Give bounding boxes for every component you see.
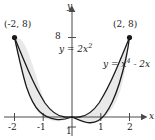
x-tick-label-neg1: -1 — [37, 123, 46, 132]
point-marker-left — [12, 35, 17, 40]
y-axis-label: y — [67, 2, 72, 11]
curve-label-quartic: y = x4 - 2x — [103, 60, 150, 69]
curve-label-quartic-pre: y = x — [103, 59, 126, 69]
curve-label-quartic-post: - 2x — [131, 59, 151, 69]
x-axis-arrow — [141, 114, 148, 121]
graph-figure: (-2, 8) (2, 8) y = 2x2 y = x4 - 2x y x -… — [0, 0, 155, 140]
point-marker-right — [127, 35, 132, 40]
curve-label-parabola: y = 2x2 — [59, 45, 92, 54]
x-axis-label: x — [149, 112, 154, 121]
point-label-right: (2, 8) — [113, 20, 137, 29]
y-tick-label-1: 1 — [66, 127, 72, 136]
point-label-left: (-2, 8) — [4, 20, 31, 29]
curve-label-parabola-exponent: 2 — [88, 42, 92, 50]
x-tick-label-1: 1 — [98, 123, 104, 132]
x-tick-label-neg2: -2 — [8, 123, 17, 132]
x-tick-label-2: 2 — [127, 123, 133, 132]
curve-label-parabola-text: y = 2x — [59, 44, 88, 54]
y-tick-label-8: 8 — [55, 32, 61, 41]
